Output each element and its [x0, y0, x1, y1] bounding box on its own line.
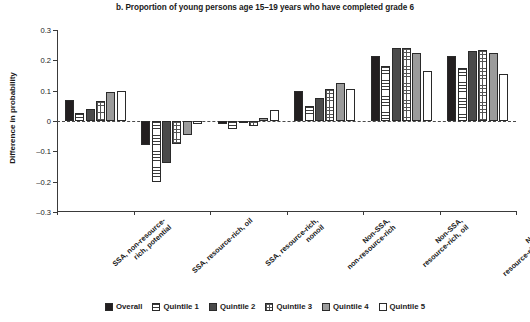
x-group-tick [287, 211, 288, 215]
bar [412, 53, 421, 121]
bar [305, 106, 314, 121]
bar [423, 71, 432, 121]
bar [152, 121, 161, 182]
y-tick-label: –0.2 [21, 177, 51, 186]
bar [141, 121, 150, 145]
bar [458, 68, 467, 121]
bar [468, 51, 477, 121]
bar [270, 110, 279, 121]
bar [381, 66, 390, 121]
y-tick [53, 60, 57, 61]
x-group-tick [363, 211, 364, 215]
legend-item[interactable]: Quintile 4 [322, 302, 369, 311]
bar [392, 48, 401, 121]
bar [371, 56, 380, 121]
legend-label: Quintile 2 [220, 302, 256, 311]
bar [75, 113, 84, 121]
y-tick-label: 0.2 [21, 56, 51, 65]
bar [259, 118, 268, 121]
bar [325, 89, 334, 121]
bar [86, 109, 95, 121]
y-tick-label: 0.1 [21, 86, 51, 95]
y-tick-label: 0 [21, 117, 51, 126]
chart-container: b. Proportion of young persons age 15–19… [0, 0, 530, 322]
y-tick-label: 0.3 [21, 26, 51, 35]
y-tick [53, 30, 57, 31]
legend-swatch-icon [152, 303, 160, 311]
bar [346, 89, 355, 121]
bar [336, 83, 345, 121]
category-label: SSA, resource-rich,nonoil [264, 216, 326, 275]
category-label: SSA, non-resource-rich, potential [111, 216, 174, 275]
legend-swatch-icon [105, 303, 113, 311]
legend-label: Quintile 5 [390, 302, 426, 311]
y-tick [53, 182, 57, 183]
y-tick [53, 151, 57, 152]
x-group-tick [57, 211, 58, 215]
bar [117, 91, 126, 121]
legend-item[interactable]: Quintile 2 [209, 302, 256, 311]
bar [193, 121, 202, 124]
bar [447, 56, 456, 121]
x-group-tick [210, 211, 211, 215]
bar [65, 100, 74, 121]
x-group-tick [516, 211, 517, 215]
zero-line [57, 121, 516, 122]
category-label: SSA, resource-rich, oil [190, 216, 254, 275]
bar [478, 50, 487, 121]
legend-label: Quintile 4 [333, 302, 369, 311]
y-tick-label: –0.3 [21, 208, 51, 217]
bar [239, 121, 248, 123]
bar [249, 121, 258, 126]
legend-swatch-icon [265, 303, 273, 311]
legend-swatch-icon [322, 303, 330, 311]
category-label: Non-SSA,non-resource-rich [339, 216, 397, 271]
bar [183, 121, 192, 135]
bar [294, 91, 303, 121]
bar [228, 121, 237, 129]
legend-item[interactable]: Quintile 1 [152, 302, 199, 311]
chart-legend: OverallQuintile 1Quintile 2Quintile 3Qui… [0, 302, 530, 311]
legend-item[interactable]: Overall [105, 302, 142, 311]
y-tick [53, 91, 57, 92]
legend-swatch-icon [209, 303, 217, 311]
bar [106, 92, 115, 121]
y-axis-title-wrap: Difference in probability [8, 38, 22, 198]
x-group-tick [440, 211, 441, 215]
category-label-line: SSA, resource-rich, oil [190, 216, 254, 275]
y-axis-title: Difference in probability [8, 38, 17, 198]
bar [218, 121, 227, 124]
y-tick-label: –0.1 [21, 147, 51, 156]
category-label: Non-SSA,resource-rich, nonoil [494, 216, 530, 278]
category-label-line: Non-SSA, [523, 216, 530, 245]
x-group-tick [134, 211, 135, 215]
bar [96, 101, 105, 121]
bar [315, 98, 324, 121]
legend-label: Quintile 1 [163, 302, 199, 311]
legend-item[interactable]: Quintile 3 [265, 302, 312, 311]
plot-area [57, 30, 516, 212]
bar [162, 121, 171, 163]
legend-swatch-icon [379, 303, 387, 311]
category-label: Non-SSA,resource-rich, oil [414, 216, 470, 269]
legend-label: Quintile 3 [276, 302, 312, 311]
legend-item[interactable]: Quintile 5 [379, 302, 426, 311]
chart-title: b. Proportion of young persons age 15–19… [0, 3, 530, 12]
bar [172, 121, 181, 144]
legend-label: Overall [116, 302, 142, 311]
bar [402, 48, 411, 121]
bar [489, 53, 498, 121]
bar [499, 74, 508, 121]
category-label-line: resource-rich, nonoil [500, 223, 530, 278]
